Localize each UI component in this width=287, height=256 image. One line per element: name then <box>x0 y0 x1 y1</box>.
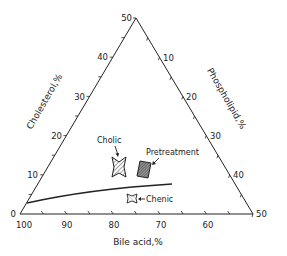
tick-label: 50 <box>121 13 132 23</box>
tick-label: 20 <box>186 92 197 102</box>
tick-label: 60 <box>203 220 214 230</box>
cholic-label: Cholic <box>97 136 121 145</box>
tick-label: 40 <box>97 52 108 62</box>
chenic-region <box>127 194 137 203</box>
pretreatment-arrow <box>152 158 159 165</box>
tick-label: 40 <box>233 170 244 180</box>
pretreatment-region <box>137 161 151 178</box>
left-axis-title: Cholesterol,% <box>25 72 65 131</box>
bottom-axis-title: Bile acid,% <box>113 237 163 247</box>
tick-label: 80 <box>109 220 120 230</box>
cholic-arrow <box>115 146 119 157</box>
tick-label: 20 <box>51 131 62 141</box>
tick-label: 30 <box>210 131 221 141</box>
bottom-tick-labels: 100 90 80 70 60 50 <box>16 209 267 230</box>
right-axis-ticks <box>147 38 253 217</box>
tick-label: 70 <box>156 220 167 230</box>
tick-label: 30 <box>74 92 85 102</box>
right-axis-title: Phospholipid,% <box>205 66 248 131</box>
chart-canvas: 100 90 80 70 60 50 0 10 20 30 40 50 10 2… <box>0 0 287 256</box>
tick-label: 0 <box>11 209 16 219</box>
tick-label: 50 <box>256 209 267 219</box>
tick-label: 90 <box>62 220 73 230</box>
left-tick-labels: 0 10 20 30 40 50 <box>11 13 132 219</box>
tick-label: 10 <box>27 170 38 180</box>
tick-label: 100 <box>16 220 32 230</box>
chenic-arrow <box>138 197 145 201</box>
ternary-chart: 100 90 80 70 60 50 0 10 20 30 40 50 10 2… <box>0 0 287 256</box>
cholic-region <box>112 157 126 177</box>
tick-label: 10 <box>163 53 174 63</box>
triangle-frame <box>20 18 253 214</box>
pretreatment-label: Pretreatment <box>146 148 199 157</box>
chenic-label: Chenic <box>146 195 173 204</box>
